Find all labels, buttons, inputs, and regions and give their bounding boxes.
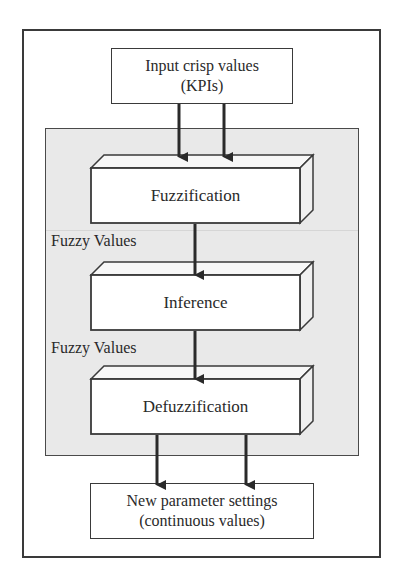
panel-divider — [46, 230, 358, 231]
new-parameter-settings-box: New parameter settings (continuous value… — [90, 483, 314, 539]
input-crisp-values-box: Input crisp values (KPIs) — [111, 48, 293, 104]
fuzzy-values-label-1: Fuzzy Values — [51, 232, 136, 250]
inference-label: Inference — [91, 275, 300, 330]
input-box-line1: Input crisp values — [145, 56, 259, 76]
output-box-line1: New parameter settings — [126, 491, 277, 511]
output-box-line2: (continuous values) — [139, 511, 265, 531]
inference-box: Inference — [91, 262, 314, 331]
fuzzification-label: Fuzzification — [91, 168, 300, 223]
fuzzification-box: Fuzzification — [91, 155, 314, 224]
defuzzification-label: Defuzzification — [91, 379, 300, 434]
input-box-line2: (KPIs) — [181, 76, 224, 96]
fuzzy-values-label-2: Fuzzy Values — [51, 339, 136, 357]
defuzzification-box: Defuzzification — [91, 366, 314, 435]
